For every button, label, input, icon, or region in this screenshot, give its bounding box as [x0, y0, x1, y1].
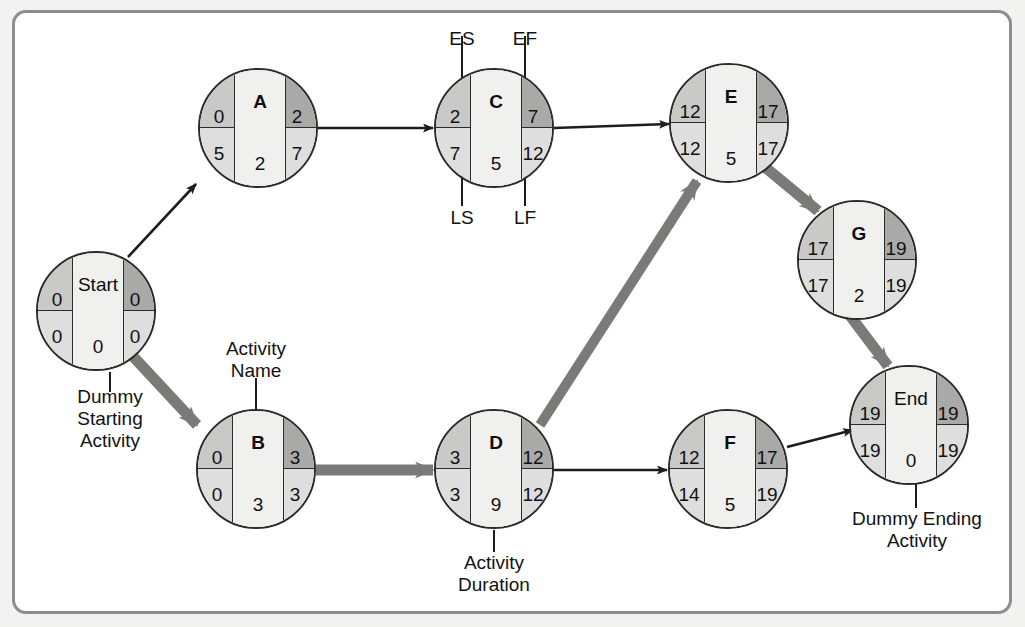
edge-c-to-e	[554, 124, 669, 128]
node-b[interactable]: 0 3 0 3 B 3	[196, 409, 316, 529]
node-duration-value: 5	[466, 154, 526, 173]
lf-label: LF	[487, 207, 563, 229]
ef-label: EF	[487, 28, 563, 50]
node-activity-name: A	[230, 92, 290, 111]
node-f[interactable]: 12 17 14 19 F 5	[668, 409, 788, 529]
node-end[interactable]: 19 19 19 19 End 0	[849, 365, 969, 485]
node-duration-value: 2	[230, 154, 290, 173]
node-activity-name: Start	[68, 275, 128, 294]
node-duration-value: 0	[881, 451, 941, 470]
node-start[interactable]: 0 0 0 0 Start 0	[36, 251, 156, 371]
node-duration-value: 9	[466, 495, 526, 514]
node-activity-name: B	[228, 433, 288, 452]
node-activity-name: D	[466, 433, 526, 452]
node-g[interactable]: 17 19 17 19 G 2	[797, 200, 917, 320]
node-activity-name: End	[881, 389, 941, 408]
node-a[interactable]: 0 2 5 7 A 2	[198, 68, 318, 188]
node-duration-value: 2	[829, 286, 889, 305]
node-duration-value: 0	[68, 337, 128, 356]
node-d[interactable]: 3 12 3 12 D 9	[434, 409, 554, 529]
edge-f-to-end	[787, 430, 853, 447]
activity-name-label: Activity Name	[196, 338, 316, 382]
dummy-ending-activity-label: Dummy Ending Activity	[831, 508, 1003, 552]
node-duration-value: 5	[700, 495, 760, 514]
dummy-starting-activity-label: Dummy Starting Activity	[50, 386, 170, 453]
node-duration-value: 3	[228, 495, 288, 514]
network-diagram-page: 0 0 0 0 Start 0 0 2 5 7 A 2 2 7 7 12 C 5	[0, 0, 1025, 627]
node-activity-name: F	[700, 433, 760, 452]
edge-d-to-e	[540, 181, 697, 425]
node-activity-name: C	[466, 92, 526, 111]
edge-start-to-a	[128, 184, 196, 257]
node-c[interactable]: 2 7 7 12 C 5	[434, 68, 554, 188]
node-duration-value: 5	[701, 149, 761, 168]
node-activity-name: G	[829, 224, 889, 243]
node-activity-name: E	[701, 87, 761, 106]
activity-duration-label: Activity Duration	[434, 552, 554, 596]
node-e[interactable]: 12 17 12 17 E 5	[669, 63, 789, 183]
